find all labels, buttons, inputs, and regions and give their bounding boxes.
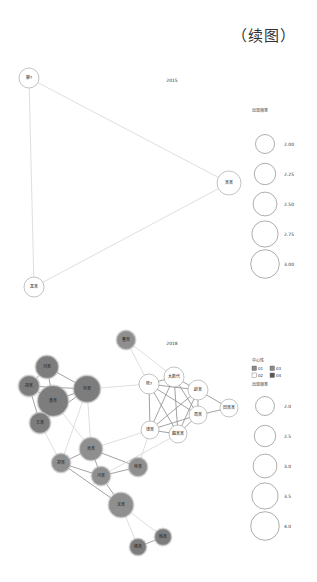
node-label: 黄某 <box>49 397 57 403</box>
legend-group-label: 02 <box>258 373 264 378</box>
node-label: 郑某 <box>57 459 65 465</box>
legend-size-circle <box>251 512 280 541</box>
legend: 中心性01030204出现频率2.02.53.03.54.0 <box>251 357 292 540</box>
node-label: 韩某 <box>159 533 167 539</box>
legend-group-label: 03 <box>276 366 282 371</box>
node-label: 某某 <box>225 179 233 185</box>
node[interactable]: 董某 <box>116 330 137 351</box>
node[interactable]: 魏某某 <box>169 425 187 443</box>
node-label: 孙某 <box>83 385 91 391</box>
legend-size-value: 3.0 <box>284 464 291 469</box>
legend-swatch <box>270 373 275 378</box>
node[interactable]: 王某 <box>29 412 52 435</box>
legend-size-circle <box>252 483 278 509</box>
legend-group-label: 04 <box>276 373 282 378</box>
node-label: 大数代 <box>168 373 180 379</box>
node-label: 赵某 <box>194 386 202 392</box>
node[interactable]: 孙某 <box>73 375 102 404</box>
legend-group-title: 中心性 <box>252 357 264 363</box>
network-chart-2015: 2015廖?某某黑某出现频率2.002.252.502.753.00 <box>19 68 294 297</box>
node[interactable]: 钱某 <box>141 421 159 439</box>
network-chart-2018: 2018董某刘某胡某黄某孙某王某陈?大数代赵某田某某周某钱某魏某某吴某郑某冯某蒋… <box>18 330 292 557</box>
node-label: 廖? <box>26 74 32 80</box>
legend-size-value: 2.5 <box>284 434 291 439</box>
node[interactable]: 黑某 <box>24 277 44 297</box>
legend-size-value: 3.00 <box>284 262 294 267</box>
node[interactable]: 周某 <box>189 406 207 424</box>
edge <box>34 183 229 287</box>
node-label: 周某 <box>194 411 202 417</box>
node[interactable]: 陈? <box>139 374 159 394</box>
legend-size-value: 3.5 <box>284 494 291 499</box>
chart-title: 2015 <box>166 78 178 83</box>
node-label: 田某某 <box>223 404 235 410</box>
legend-size-circle <box>254 163 275 184</box>
legend: 出现频率2.002.252.502.753.00 <box>251 107 294 278</box>
node[interactable]: 胡某 <box>18 375 41 398</box>
node-label: 黑某 <box>30 283 38 289</box>
node-label: 冯某 <box>97 472 105 478</box>
chart-title: 2018 <box>166 341 178 346</box>
legend-size-value: 2.75 <box>284 232 294 237</box>
node[interactable]: 刘某 <box>35 355 60 380</box>
legend-size-circle <box>256 135 275 154</box>
node-label: 陈? <box>146 380 152 386</box>
edge <box>29 78 34 287</box>
node-label: 蒋某 <box>134 463 142 469</box>
node[interactable]: 田某某 <box>220 399 238 417</box>
legend-size-value: 2.25 <box>284 172 294 177</box>
edge <box>29 78 229 183</box>
legend-swatch <box>252 373 257 378</box>
legend-size-circle <box>252 221 278 247</box>
node[interactable]: 韩某 <box>154 528 173 547</box>
node-label: 钱某 <box>146 426 154 432</box>
node[interactable]: 某某 <box>217 171 241 195</box>
legend-size-circle <box>253 454 277 478</box>
node-label: 董某 <box>122 336 130 342</box>
network-diagrams: 2015廖?某某黑某出现频率2.002.252.502.753.002018董某… <box>0 0 317 582</box>
node-label: 刘某 <box>43 363 51 369</box>
legend-group-label: 01 <box>258 366 264 371</box>
legend-size-value: 2.0 <box>284 404 291 409</box>
legend-size-circle <box>251 250 280 279</box>
node[interactable]: 蒋某 <box>128 457 149 478</box>
node-label: 胡某 <box>25 382 33 388</box>
legend-size-title: 出现频率 <box>252 107 268 113</box>
node[interactable]: 沈某 <box>108 492 135 519</box>
node[interactable]: 郑某 <box>51 453 72 474</box>
legend-size-value: 2.50 <box>284 202 294 207</box>
legend-swatch <box>252 366 257 371</box>
node-label: 王某 <box>36 419 44 425</box>
node[interactable]: 冯某 <box>91 466 112 487</box>
node-label: 吴某 <box>87 445 95 451</box>
legend-swatch <box>270 366 275 371</box>
legend-size-circle <box>256 397 275 416</box>
node[interactable]: 廖? <box>19 68 39 88</box>
node-label: 沈某 <box>117 501 125 507</box>
legend-size-circle <box>253 192 277 216</box>
node[interactable]: 吴某 <box>79 437 104 462</box>
node[interactable]: 杨某 <box>129 538 148 557</box>
node-label: 魏某某 <box>172 430 184 436</box>
legend-size-title: 出现频率 <box>252 381 268 387</box>
node[interactable]: 赵某 <box>188 380 208 400</box>
legend-size-value: 4.0 <box>284 524 291 529</box>
node-label: 杨某 <box>134 543 142 549</box>
node[interactable]: 大数代 <box>164 367 184 387</box>
legend-size-circle <box>254 425 275 446</box>
legend-size-value: 2.00 <box>284 142 294 147</box>
